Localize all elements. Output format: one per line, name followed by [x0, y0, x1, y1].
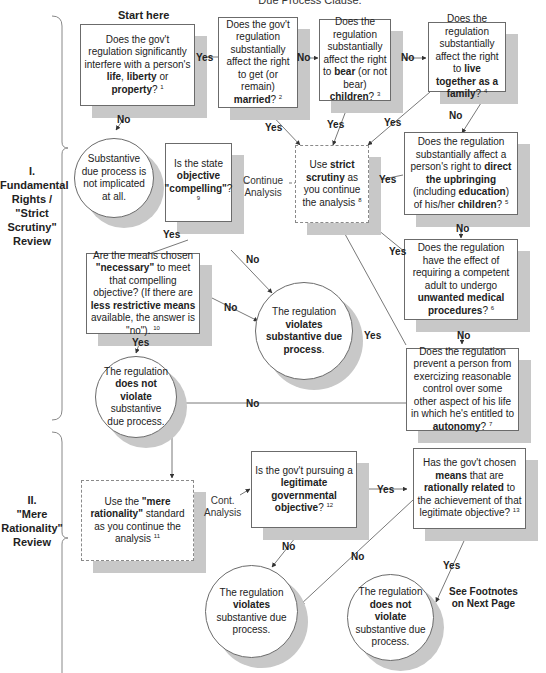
- node-does-not-violate-2: The regulation does not violate substant…: [347, 574, 434, 661]
- section-label-line: Rationality": [0, 521, 64, 535]
- section-label-line: "Mere: [0, 507, 64, 521]
- edge-label-yes: Yes: [196, 52, 213, 63]
- node-q2-married: Does the gov't regulation substantially …: [218, 17, 298, 108]
- edge-label-yes: Yes: [389, 246, 406, 257]
- footnotes-note: See Footnotes on Next Page: [449, 586, 518, 610]
- node-q6-medical-procedures: Does the regulation have the effect of r…: [404, 239, 518, 320]
- node-q5-upbringing: Does the regulation substantially affect…: [404, 132, 518, 215]
- edge-label-yes: Yes: [364, 330, 381, 341]
- node-q7-autonomy: Does the regulation prevent a person fro…: [406, 348, 519, 431]
- edge-label-no: No: [297, 52, 310, 63]
- section-label-line: Rights /: [0, 192, 64, 206]
- edge-label-continue-analysis: Continue Analysis: [243, 175, 283, 199]
- edge-label-no: No: [117, 114, 130, 125]
- section-label-line: Review: [0, 234, 64, 248]
- section-label-mere-rationality: II. "Mere Rationality" Review: [0, 493, 64, 549]
- edge-label-yes: Yes: [327, 119, 344, 130]
- edge-label-no: No: [456, 223, 469, 234]
- section-bracket-2: [52, 432, 68, 673]
- edge-label-no: No: [282, 541, 295, 552]
- section-label-line: Review: [0, 535, 64, 549]
- node-violates-1: The regulation violates substantive due …: [255, 282, 353, 380]
- edge-label-no: No: [457, 330, 470, 341]
- edge-label-no: No: [224, 302, 237, 313]
- node-q4-family: Does the regulation substantially affect…: [428, 22, 506, 92]
- node-q10-necessary: Are the means chosen "necessary" to meet…: [86, 253, 200, 334]
- section-label-line: Scrutiny": [0, 220, 64, 234]
- node-strict-scrutiny: Use strict scrutiny as you continue the …: [295, 145, 369, 223]
- edge-label-no: No: [449, 110, 462, 121]
- edge-label-yes: Yes: [443, 560, 460, 571]
- edge-label-yes: Yes: [265, 122, 282, 133]
- edge-label-yes: Yes: [132, 337, 149, 348]
- node-violates-2: The regulation violates substantive due …: [205, 565, 298, 658]
- edge-label-no: No: [246, 254, 259, 265]
- section-label-line: Fundamental: [0, 178, 64, 192]
- edge-label-cont-analysis: Cont. Analysis: [204, 495, 241, 519]
- edge-label-yes: Yes: [384, 117, 401, 128]
- node-mere-rationality: Use the "mere rationality" standard as y…: [81, 480, 194, 561]
- node-q9-compelling: Is the state objective "compelling"?9: [165, 143, 232, 222]
- node-q1-life-liberty-property: Does the gov't regulation significantly …: [80, 24, 195, 106]
- section-label-line: I.: [0, 164, 64, 178]
- node-does-not-violate-1: The regulation does not violate substant…: [95, 356, 177, 438]
- node-not-implicated: Substantive due process is not implicate…: [74, 138, 154, 218]
- edge-label-yes: Yes: [379, 174, 396, 185]
- node-q13-rationally-related: Has the gov't chosen means that are rati…: [413, 448, 526, 529]
- edge-label-no: No: [246, 398, 259, 409]
- edge-label-yes: Yes: [377, 484, 394, 495]
- node-q3-children: Does the regulation substantially affect…: [319, 19, 391, 101]
- edge-label-yes: Yes: [163, 229, 180, 240]
- edge-label-no: No: [401, 52, 414, 63]
- node-q12-legitimate-objective: Is the gov't pursuing a legitimate gover…: [251, 451, 357, 528]
- edge-label-no: No: [351, 551, 364, 562]
- section-label-fundamental-rights: I. Fundamental Rights / "Strict Scrutiny…: [0, 164, 64, 248]
- section-label-line: II.: [0, 493, 64, 507]
- section-label-line: "Strict: [0, 206, 64, 220]
